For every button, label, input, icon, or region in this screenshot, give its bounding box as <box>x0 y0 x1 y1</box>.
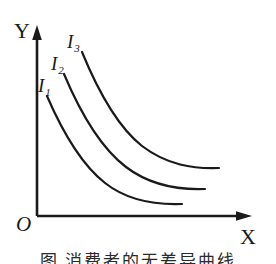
plot-canvas <box>0 0 276 264</box>
curve-label-i3: I3 <box>67 32 79 51</box>
indifference-curve-1 <box>47 96 182 204</box>
curve-label-i1-subscript: 1 <box>45 86 51 98</box>
x-axis-arrowhead <box>236 211 252 220</box>
y-axis-label: Y <box>14 20 30 42</box>
y-axis-arrowhead <box>32 25 42 40</box>
curve-label-i3-base: I <box>67 31 73 52</box>
curve-label-i2-base: I <box>51 53 57 74</box>
curve-label-i2-subscript: 2 <box>58 64 64 76</box>
x-axis-label: X <box>240 226 256 248</box>
indifference-curve-figure: Y X O I1 I2 I3 图 消费者的无差异曲线 <box>0 0 276 264</box>
curve-label-i2: I2 <box>51 54 63 73</box>
figure-caption: 图 消费者的无差异曲线 <box>0 252 276 264</box>
curve-label-i1-base: I <box>38 75 44 96</box>
curve-label-i1: I1 <box>38 76 50 95</box>
indifference-curve-2 <box>64 74 205 189</box>
indifference-curve-3 <box>82 52 219 168</box>
origin-label: O <box>16 214 31 235</box>
curve-label-i3-subscript: 3 <box>74 42 80 54</box>
